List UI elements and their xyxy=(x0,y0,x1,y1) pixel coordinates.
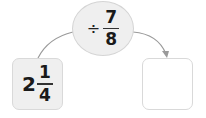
left-connector-arc xyxy=(38,32,73,58)
fraction-part: 1 4 xyxy=(37,64,53,104)
answer-box[interactable] xyxy=(142,58,193,110)
mixed-number: 2 1 4 xyxy=(22,64,53,104)
input-numerator: 1 xyxy=(39,64,51,81)
divisor-numerator: 7 xyxy=(105,9,117,26)
whole-part: 2 xyxy=(22,72,36,96)
arrowhead-icon xyxy=(162,51,169,58)
right-connector-arc xyxy=(133,32,166,54)
operation-bubble: ÷ 7 8 xyxy=(72,1,134,56)
input-denominator: 4 xyxy=(39,87,51,104)
divisor-fraction: 7 8 xyxy=(103,9,119,49)
division-diagram: ÷ 7 8 2 1 4 xyxy=(0,0,206,118)
divisor-denominator: 8 xyxy=(105,31,117,48)
input-box: 2 1 4 xyxy=(12,58,63,110)
divide-operator: ÷ xyxy=(87,19,100,38)
